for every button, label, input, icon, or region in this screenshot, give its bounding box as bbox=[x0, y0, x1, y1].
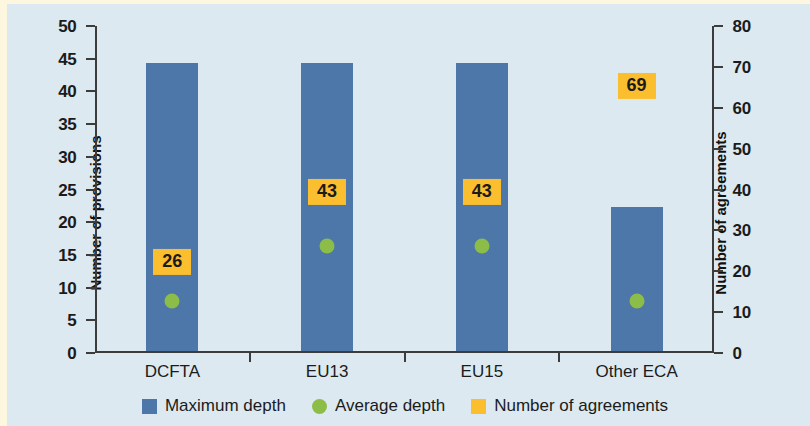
y-tick-right bbox=[714, 229, 723, 231]
y-tick-label-right: 40 bbox=[733, 181, 751, 201]
y-tick-left bbox=[86, 189, 95, 191]
y-tick-label-left: 45 bbox=[58, 50, 76, 70]
chart-legend: Maximum depthAverage depthNumber of agre… bbox=[0, 396, 810, 416]
y-tick-left bbox=[86, 123, 95, 125]
y-tick-label-right: 30 bbox=[733, 221, 751, 241]
x-axis-label: EU13 bbox=[306, 362, 349, 382]
agreements-value-label: 26 bbox=[153, 249, 191, 275]
y-tick-right bbox=[714, 66, 723, 68]
legend-label: Average depth bbox=[335, 396, 445, 416]
bar bbox=[611, 207, 663, 351]
y-tick-left bbox=[86, 25, 95, 27]
x-axis-label: EU15 bbox=[461, 362, 504, 382]
y-tick-label-right: 50 bbox=[733, 140, 751, 160]
y-tick-label-right: 0 bbox=[733, 344, 742, 364]
y-tick-label-left: 30 bbox=[58, 148, 76, 168]
y-tick-right bbox=[714, 270, 723, 272]
x-axis-label: DCFTA bbox=[145, 362, 200, 382]
y-tick-left bbox=[86, 221, 95, 223]
y-tick-label-left: 35 bbox=[58, 115, 76, 135]
y-tick-label-right: 60 bbox=[733, 99, 751, 119]
y-tick-label-right: 70 bbox=[733, 58, 751, 78]
average-depth-point bbox=[629, 294, 644, 309]
y-tick-right bbox=[714, 352, 723, 354]
y-tick-left bbox=[86, 287, 95, 289]
square-icon bbox=[142, 399, 157, 414]
y-tick-right bbox=[714, 107, 723, 109]
agreements-value-label: 43 bbox=[308, 179, 346, 205]
y-tick-label-left: 15 bbox=[58, 246, 76, 266]
y-tick-label-left: 5 bbox=[67, 311, 76, 331]
square-icon bbox=[471, 399, 486, 414]
bar bbox=[456, 63, 508, 351]
agreements-value-label: 69 bbox=[618, 73, 656, 99]
y-tick-left bbox=[86, 90, 95, 92]
y-tick-label-left: 25 bbox=[58, 181, 76, 201]
y-tick-left bbox=[86, 58, 95, 60]
circle-icon bbox=[312, 399, 327, 414]
scan-edge-left bbox=[0, 0, 7, 426]
chart-figure: Number of provisions Number of agreement… bbox=[0, 0, 810, 426]
y-tick-label-right: 10 bbox=[733, 303, 751, 323]
y-tick-left bbox=[86, 352, 95, 354]
y-tick-right bbox=[714, 148, 723, 150]
legend-item[interactable]: Number of agreements bbox=[471, 396, 668, 416]
y-tick-label-left: 0 bbox=[67, 344, 76, 364]
average-depth-point bbox=[474, 238, 489, 253]
y-tick-label-left: 10 bbox=[58, 279, 76, 299]
x-axis-label: Other ECA bbox=[596, 362, 678, 382]
y-tick-label-left: 40 bbox=[58, 82, 76, 102]
scan-edge-top bbox=[0, 0, 810, 4]
y-tick-label-left: 50 bbox=[58, 17, 76, 37]
y-tick-label-right: 80 bbox=[733, 17, 751, 37]
average-depth-point bbox=[165, 294, 180, 309]
legend-label: Number of agreements bbox=[494, 396, 668, 416]
plot-area: 05101520253035404550 01020304050607080 2… bbox=[95, 26, 714, 353]
agreements-value-label: 43 bbox=[463, 179, 501, 205]
y-tick-label-left: 20 bbox=[58, 213, 76, 233]
average-depth-point bbox=[320, 238, 335, 253]
x-axis-labels: DCFTAEU13EU15Other ECA bbox=[95, 362, 714, 388]
y-tick-right bbox=[714, 311, 723, 313]
y-tick-left bbox=[86, 319, 95, 321]
legend-item[interactable]: Maximum depth bbox=[142, 396, 286, 416]
y-axis-left-line bbox=[95, 26, 97, 353]
legend-item[interactable]: Average depth bbox=[312, 396, 445, 416]
x-tick bbox=[249, 353, 251, 362]
x-tick bbox=[404, 353, 406, 362]
y-tick-right bbox=[714, 25, 723, 27]
y-tick-right bbox=[714, 189, 723, 191]
y-tick-label-right: 20 bbox=[733, 262, 751, 282]
y-tick-left bbox=[86, 254, 95, 256]
x-tick bbox=[558, 353, 560, 362]
legend-label: Maximum depth bbox=[165, 396, 286, 416]
y-tick-left bbox=[86, 156, 95, 158]
bar bbox=[301, 63, 353, 351]
